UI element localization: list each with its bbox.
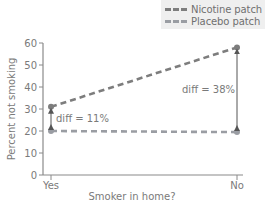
x-tick-label: No [230,180,244,191]
series-line-1 [51,131,237,132]
y-axis-label: Percent not smoking [6,58,17,161]
x-tick-label: Yes [42,180,59,191]
data-point [234,44,240,50]
x-axis-label: Smoker in home? [88,191,175,202]
series-line-0 [51,47,237,106]
line-chart: 0102030405060YesNo diff = 11%diff = 38% … [0,0,265,205]
y-tick-label: 20 [24,126,37,137]
data-point [48,128,54,134]
y-tick-label: 40 [24,82,37,93]
y-tick-label: 30 [24,104,37,115]
chart-annotations: diff = 11%diff = 38% [51,51,237,128]
data-point [48,104,54,110]
y-tick-label: 50 [24,60,37,71]
y-tick-label: 10 [24,148,37,159]
y-tick-label: 60 [24,38,37,49]
data-point [234,129,240,135]
diff-label: diff = 11% [56,113,109,124]
y-tick-label: 0 [31,170,37,181]
diff-label: diff = 38% [182,84,235,95]
